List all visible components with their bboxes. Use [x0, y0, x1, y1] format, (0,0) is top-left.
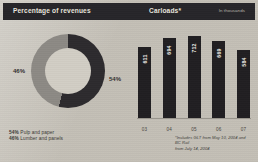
donut-label-lumber: 46% [13, 68, 25, 74]
header-band: Percentage of revenues Carloads* In thou… [3, 3, 255, 20]
legend-pct: 54% [9, 130, 19, 135]
footnote-line-2: from July 14, 2004 [175, 146, 252, 151]
legend-label: Lumber and panels [20, 136, 63, 141]
donut-hole [45, 48, 91, 94]
bar-column: 669 [211, 30, 226, 118]
bar-column: 611 [137, 30, 152, 118]
bar-value-label: 712 [191, 43, 197, 52]
carloads-panel: 611694712669584 0304050607 *Includes GLT… [131, 20, 255, 159]
infographic-page: Percentage of revenues Carloads* In thou… [0, 0, 258, 162]
bar: 694 [163, 38, 176, 118]
bar: 669 [212, 41, 225, 118]
x-tick-label: 04 [162, 127, 177, 132]
bar-chart: 611694712669584 0304050607 [137, 30, 251, 124]
x-axis-line [137, 118, 251, 119]
bar: 611 [138, 47, 151, 118]
revenue-share-panel: 46% 54% 54% Pulp and paper 46% Lumber an… [3, 20, 128, 159]
x-tick-label: 06 [211, 127, 226, 132]
legend-label: Pulp and paper [20, 130, 54, 135]
bar-value-label: 611 [142, 55, 148, 64]
x-tick-label: 03 [137, 127, 152, 132]
x-axis-ticks: 0304050607 [137, 127, 251, 132]
bar: 712 [188, 36, 201, 118]
bar-value-label: 669 [216, 48, 222, 57]
bar-column: 694 [162, 30, 177, 118]
legend-item: 46% Lumber and panels [9, 136, 125, 142]
chart-footnote: *Includes GLT from May 10, 2004 and BC R… [175, 135, 252, 151]
units-note: In thousands [219, 8, 245, 13]
bar-value-label: 584 [241, 58, 247, 67]
bar-column: 584 [236, 30, 251, 118]
x-tick-label: 05 [187, 127, 202, 132]
bar-series: 611694712669584 [137, 30, 251, 118]
bar-column: 712 [187, 30, 202, 118]
right-panel-title: Carloads* [149, 7, 181, 14]
left-panel-title: Percentage of revenues [13, 7, 91, 14]
legend-pct: 46% [9, 136, 19, 141]
bar: 584 [237, 50, 250, 118]
bar-value-label: 694 [166, 45, 172, 54]
donut-legend: 54% Pulp and paper 46% Lumber and panels [9, 130, 125, 143]
footnote-line-1: *Includes GLT from May 10, 2004 and BC R… [175, 135, 252, 146]
x-tick-label: 07 [236, 127, 251, 132]
donut-label-pulp: 54% [109, 76, 121, 82]
donut-chart [31, 34, 105, 108]
